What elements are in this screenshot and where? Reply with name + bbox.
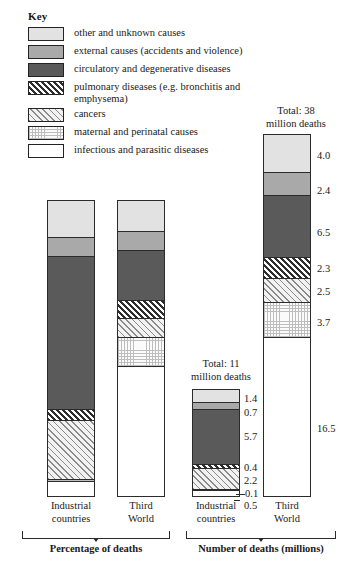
legend-label-pulmonary: pulmonary diseases (e.g. bronchitis and … — [74, 80, 289, 104]
brace-percentage-panel — [22, 531, 170, 539]
legend-item-infectious: infectious and parasitic diseases — [28, 143, 298, 158]
segment-pulmonary — [118, 301, 164, 319]
legend-swatch-pulmonary — [28, 81, 64, 95]
value-label-third-cancers: 2.5 — [317, 287, 330, 298]
segment-circulatory — [48, 257, 94, 410]
value-label-industrial-pulmonary: 0.4 — [244, 463, 257, 474]
bar-caption-percentage-third-world: Third World — [107, 500, 175, 525]
value-label-third-circulatory: 6.5 — [317, 228, 330, 239]
bar-number-third-world — [263, 134, 311, 497]
legend-item-circulatory: circulatory and degenerative diseases — [28, 62, 298, 77]
segment-external — [118, 232, 164, 251]
legend-swatch-external — [28, 45, 64, 59]
segment-other — [48, 201, 94, 238]
segment-circulatory — [118, 251, 164, 301]
segment-other — [193, 390, 239, 403]
bar-percentage-third-world — [117, 200, 165, 497]
segment-external — [193, 403, 239, 410]
segment-cancers — [118, 319, 164, 338]
segment-external — [264, 173, 310, 196]
legend-label-cancers: cancers — [74, 107, 105, 120]
segment-maternal — [118, 338, 164, 367]
legend-item-other: other and unknown causes — [28, 26, 298, 41]
segment-circulatory — [264, 196, 310, 258]
value-label-third-other: 4.0 — [317, 151, 330, 162]
bar-caption-number-industrial: Industrial countries — [182, 500, 250, 525]
total-label-number-third-world: Total: 38 million deaths — [250, 105, 342, 130]
legend-label-other: other and unknown causes — [74, 26, 185, 39]
value-label-industrial-maternal: 0.1 — [245, 489, 258, 500]
legend-swatch-maternal — [28, 126, 64, 140]
axis-title-percentage: Percentage of deaths — [22, 543, 170, 554]
value-label-third-infectious: 16.5 — [317, 424, 335, 435]
segment-cancers — [48, 421, 94, 480]
legend-swatch-infectious — [28, 144, 64, 158]
segment-maternal — [264, 303, 310, 338]
segment-infectious — [264, 338, 310, 496]
bar-caption-percentage-industrial: Industrial countries — [37, 500, 105, 525]
legend-swatch-cancers — [28, 108, 64, 122]
value-label-industrial-cancers: 2.2 — [244, 476, 257, 487]
segment-external — [48, 238, 94, 257]
legend-swatch-circulatory — [28, 63, 64, 77]
total-label-number-industrial: Total: 11 million deaths — [178, 358, 264, 383]
value-label-third-pulmonary: 2.3 — [317, 264, 330, 275]
segment-infectious — [48, 482, 94, 496]
value-label-industrial-other: 1.4 — [244, 394, 257, 405]
legend-label-external: external causes (accidents and violence) — [74, 44, 243, 57]
bar-number-industrial-countries — [192, 389, 240, 497]
bar-percentage-industrial-countries — [47, 200, 95, 497]
segment-infectious — [193, 491, 239, 496]
value-label-third-maternal: 3.7 — [317, 318, 330, 329]
segment-cancers — [264, 279, 310, 303]
segment-infectious — [118, 367, 164, 496]
legend-title: Key — [28, 10, 298, 22]
segment-cancers — [193, 469, 239, 490]
segment-pulmonary — [264, 258, 310, 280]
legend-item-pulmonary: pulmonary diseases (e.g. bronchitis and … — [28, 80, 298, 104]
segment-other — [118, 201, 164, 232]
legend-key: Key other and unknown causes external ca… — [28, 10, 298, 161]
leader-line-maternal — [236, 494, 245, 495]
value-label-third-external: 2.4 — [317, 186, 330, 197]
bar-caption-number-third-world: Third World — [253, 500, 321, 525]
legend-swatch-other — [28, 27, 64, 41]
segment-circulatory — [193, 410, 239, 465]
legend-label-infectious: infectious and parasitic diseases — [74, 143, 208, 156]
legend-label-circulatory: circulatory and degenerative diseases — [74, 62, 231, 75]
axis-title-number: Number of deaths (millions) — [176, 543, 346, 554]
value-label-industrial-external: 0.7 — [244, 408, 257, 419]
value-label-industrial-circulatory: 5.7 — [244, 432, 257, 443]
segment-other — [264, 135, 310, 173]
brace-number-panel — [186, 531, 336, 539]
segment-pulmonary — [48, 410, 94, 421]
legend-label-maternal: maternal and perinatal causes — [74, 125, 198, 138]
legend-item-external: external causes (accidents and violence) — [28, 44, 298, 59]
